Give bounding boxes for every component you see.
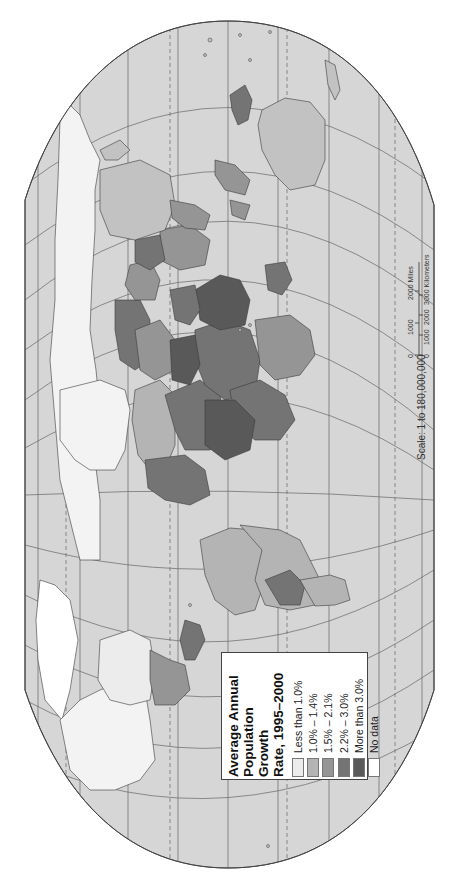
region-usa <box>98 630 155 705</box>
legend-title-line-3: Rate, 1995–2000 <box>271 658 286 777</box>
scale-km-3000: 3000 Kilometers <box>423 254 430 305</box>
scale-km-0: 0 <box>423 354 430 358</box>
legend-title-line-2: Population Growth <box>241 658 271 777</box>
scale-km-2000: 2000 <box>423 309 430 325</box>
legend-label: No data <box>368 716 380 753</box>
legend-label: 2.2% – 3.0% <box>338 693 350 753</box>
legend-swatch <box>307 758 319 777</box>
legend-item-1-to-1-4: 1.0% – 1.4% <box>305 658 320 777</box>
legend-label: Less than 1.0% <box>292 681 304 753</box>
legend-swatch <box>322 758 334 777</box>
scale-miles-1000: 1000 <box>407 319 414 335</box>
legend-title: Average Annual Population Growth Rate, 1… <box>226 658 286 777</box>
region-china <box>100 160 175 240</box>
legend-swatch <box>353 758 365 777</box>
legend-swatch <box>368 758 380 777</box>
legend-item-less-than-1: Less than 1.0% <box>290 658 305 777</box>
scale-km-1000: 1000 <box>423 329 430 345</box>
scale-miles-2000: 2000 Miles <box>407 266 414 300</box>
legend-label: 1.5% – 2.1% <box>322 693 334 753</box>
legend-item-no-data: No data <box>366 658 381 777</box>
legend-item-more-than-3: More than 3.0% <box>351 658 366 777</box>
scale-miles-0: 0 <box>407 354 414 358</box>
legend-label: 1.0% – 1.4% <box>307 693 319 753</box>
legend-label: More than 3.0% <box>353 679 365 753</box>
legend-item-2-2-to-3: 2.2% – 3.0% <box>336 658 351 777</box>
legend-title-line-1: Average Annual <box>226 658 241 777</box>
scale-ratio-text: Scale: 1 to 180,000,000 <box>416 354 427 460</box>
legend-swatch <box>292 758 304 777</box>
legend-swatch <box>338 758 350 777</box>
legend: Average Annual Population Growth Rate, 1… <box>221 652 368 780</box>
legend-item-1-5-to-2-1: 1.5% – 2.1% <box>321 658 336 777</box>
